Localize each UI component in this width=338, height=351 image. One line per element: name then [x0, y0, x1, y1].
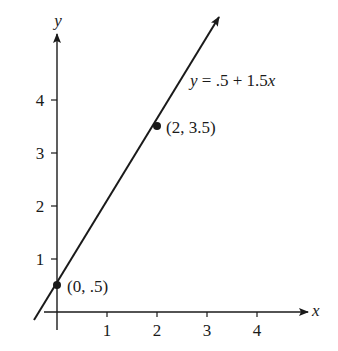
x-tick-label-3: 3: [203, 321, 212, 340]
equation-x: x: [267, 71, 276, 90]
y-tick-label-4: 4: [36, 91, 45, 110]
point-2-3.5: [153, 122, 161, 130]
x-tick-label-4: 4: [253, 321, 262, 340]
point-label-1: (0, .5): [67, 277, 108, 296]
y-axis-label: y: [52, 11, 62, 30]
line-chart: 1 2 3 4 x 1 2 3 4 y (0, .5) (2, 3.5) y =…: [0, 0, 338, 351]
equation-body: = .5 + 1.5: [198, 71, 268, 90]
x-tick-label-2: 2: [153, 321, 162, 340]
equation-y: y: [188, 71, 198, 90]
equation-label: y = .5 + 1.5x: [188, 71, 276, 90]
series-line: [34, 17, 219, 320]
y-tick-label-2: 2: [36, 197, 45, 216]
point-0-0.5: [53, 281, 61, 289]
point-label-2: (2, 3.5): [166, 118, 216, 137]
x-tick-label-1: 1: [103, 321, 112, 340]
x-axis: 1 2 3 4 x: [44, 301, 320, 340]
y-tick-label-3: 3: [36, 144, 45, 163]
x-axis-label: x: [311, 301, 320, 320]
y-tick-label-1: 1: [36, 250, 45, 269]
